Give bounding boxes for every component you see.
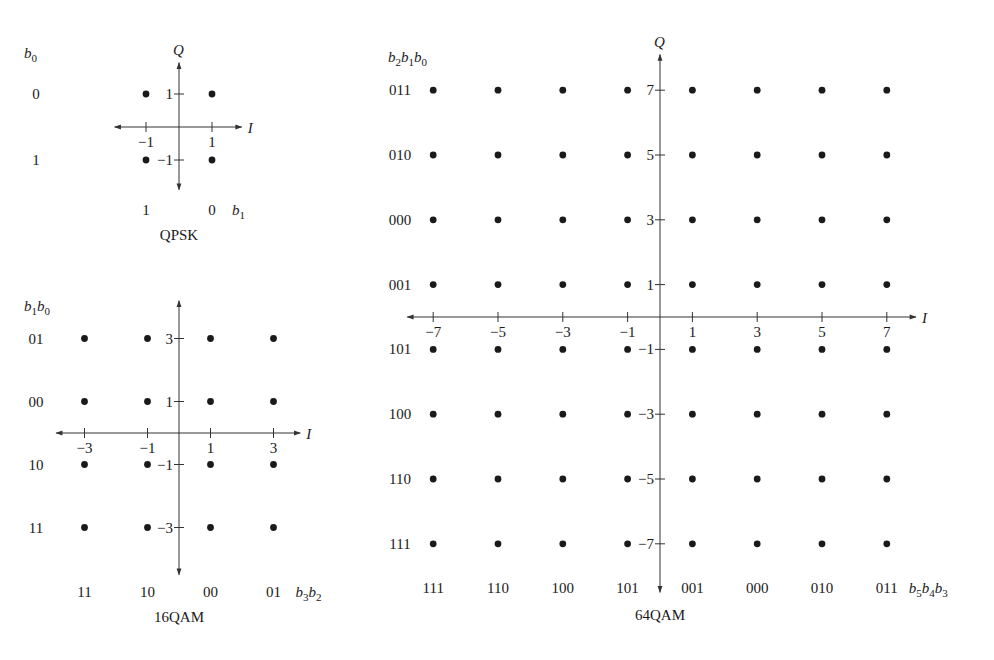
constellation-point (207, 335, 214, 342)
constellation-point (559, 152, 566, 159)
constellation-point (883, 346, 890, 353)
col-bit-label: 01 (266, 584, 281, 600)
constellation-point (430, 281, 437, 288)
constellation-point (689, 216, 696, 223)
x-tick-label: 1 (689, 324, 697, 340)
constellation-point (883, 476, 890, 483)
constellation-point (495, 476, 502, 483)
constellation-point (144, 335, 151, 342)
constellation-point (883, 281, 890, 288)
constellation-point (883, 152, 890, 159)
diagram-64qam: IQ−7−5−3−113577531−1−3−5−7b2​b1​b0​01101… (388, 34, 948, 623)
constellation-point (689, 411, 696, 418)
x-tick-label: −3 (555, 324, 571, 340)
constellation-point (144, 398, 151, 405)
constellation-point (430, 346, 437, 353)
y-tick-label: −5 (638, 471, 654, 487)
row-bit-label: 11 (29, 520, 43, 536)
i-axis-label: I (305, 426, 312, 442)
constellation-point (209, 157, 216, 164)
y-tick-label: −7 (638, 536, 654, 552)
constellation-point (819, 476, 826, 483)
constellation-point (819, 281, 826, 288)
constellation-point (883, 216, 890, 223)
diagram-title: 64QAM (635, 607, 685, 623)
constellation-point (144, 524, 151, 531)
x-tick-label: −1 (140, 440, 156, 456)
constellation-point (270, 524, 277, 531)
row-bit-label: 111 (389, 536, 410, 552)
constellation-point (624, 346, 631, 353)
constellation-point (430, 216, 437, 223)
constellation-point (495, 346, 502, 353)
constellation-point (624, 216, 631, 223)
constellation-point (559, 411, 566, 418)
x-tick-label: 3 (753, 324, 761, 340)
constellation-point (754, 411, 761, 418)
y-tick-label: −1 (638, 341, 654, 357)
i-axis-label: I (247, 120, 254, 136)
constellation-point (689, 476, 696, 483)
q-axis-label: Q (654, 34, 665, 50)
diagram-title: QPSK (160, 227, 199, 243)
constellation-point (81, 461, 88, 468)
constellation-point (270, 335, 277, 342)
row-bit-label: 001 (389, 277, 412, 293)
constellation-point (270, 398, 277, 405)
constellation-point (754, 540, 761, 547)
constellation-point (143, 157, 150, 164)
constellation-point (883, 411, 890, 418)
constellation-diagrams: IQ−111−1b0​0110b1​QPSKI−3−11331−1−3b1​b0… (0, 0, 994, 660)
constellation-point (495, 152, 502, 159)
row-bit-label: 10 (29, 457, 44, 473)
col-bit-label: 00 (203, 584, 218, 600)
constellation-point (819, 346, 826, 353)
constellation-point (81, 398, 88, 405)
constellation-point (559, 346, 566, 353)
col-bits-header: b5​b4​b3​ (909, 580, 949, 599)
y-tick-label: 5 (647, 147, 655, 163)
row-bits-header: b0​ (24, 45, 38, 64)
constellation-point (689, 540, 696, 547)
y-tick-label: 7 (647, 82, 655, 98)
col-bits-header: b1​ (232, 202, 245, 221)
constellation-point (624, 476, 631, 483)
constellation-point (495, 411, 502, 418)
constellation-point (624, 411, 631, 418)
constellation-point (430, 152, 437, 159)
diagram-16qam: I−3−11331−1−3b1​b0​0100101111100001b3​b2… (24, 298, 322, 626)
col-bit-label: 011 (876, 580, 898, 596)
col-bit-label: 001 (681, 580, 704, 596)
constellation-point (207, 461, 214, 468)
row-bit-label: 01 (29, 331, 44, 347)
i-axis-label: I (921, 310, 928, 326)
constellation-point (819, 152, 826, 159)
diagram-qpsk: IQ−111−1b0​0110b1​QPSK (24, 42, 254, 243)
y-tick-label: −3 (157, 520, 173, 536)
constellation-point (430, 476, 437, 483)
constellation-point (754, 152, 761, 159)
diagram-title: 16QAM (154, 609, 204, 625)
constellation-point (819, 540, 826, 547)
constellation-point (559, 87, 566, 94)
row-bits-header: b1​b0​ (24, 298, 51, 317)
x-tick-label: −1 (138, 134, 154, 150)
row-bit-label: 010 (389, 147, 412, 163)
col-bit-label: 100 (552, 580, 575, 596)
constellation-point (819, 216, 826, 223)
x-tick-label: 7 (883, 324, 891, 340)
x-tick-label: −1 (620, 324, 636, 340)
x-tick-label: −5 (490, 324, 506, 340)
constellation-point (754, 216, 761, 223)
col-bit-label: 101 (616, 580, 639, 596)
constellation-point (883, 87, 890, 94)
constellation-point (559, 216, 566, 223)
constellation-point (689, 87, 696, 94)
constellation-point (689, 152, 696, 159)
constellation-point (689, 281, 696, 288)
y-tick-label: 1 (166, 394, 174, 410)
constellation-point (495, 281, 502, 288)
constellation-point (819, 87, 826, 94)
x-tick-label: 3 (270, 440, 278, 456)
y-tick-label: −1 (157, 457, 173, 473)
